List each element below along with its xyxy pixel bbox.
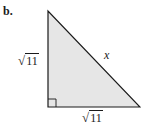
triangle-shape bbox=[48, 11, 140, 107]
part-label: b. bbox=[3, 4, 13, 19]
sqrt-expression: √11 bbox=[18, 53, 39, 69]
left-side-label: √11 bbox=[18, 53, 39, 69]
radicand: 11 bbox=[25, 53, 39, 68]
sqrt-expression: √11 bbox=[82, 110, 103, 126]
hypotenuse-label: x bbox=[104, 48, 109, 63]
bottom-side-label: √11 bbox=[82, 110, 103, 126]
radicand: 11 bbox=[89, 110, 103, 125]
